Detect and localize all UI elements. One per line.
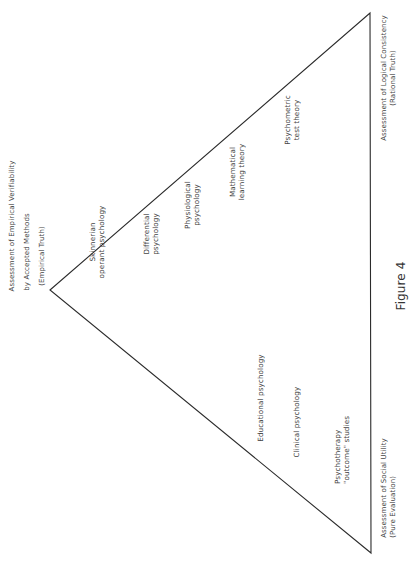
field-label-physiological: Physiological psychology: [184, 181, 201, 229]
vertex-evaluation-line2: (Pure Evaluation): [388, 438, 397, 538]
figure-diagram: Assessment of Empirical Verifiability by…: [0, 0, 418, 561]
field-label-skinnerian: Skinnerian operant psychology: [89, 206, 106, 279]
field-label-educational: Educational psychology: [257, 354, 266, 441]
vertex-label-empirical-methods: by Accepted Methods: [23, 213, 32, 290]
triangle-outline: [50, 13, 371, 553]
field-label-differential: Differential psychology: [143, 213, 160, 255]
field-line2: test theory: [292, 95, 301, 144]
vertex-rational-line1: Assessment of Logical Consistency: [380, 15, 389, 141]
field-line1: Clinical psychology: [293, 387, 302, 458]
field-line2: "outcome" studies: [342, 416, 351, 484]
vertex-label-evaluation: Assessment of Social Utility (Pure Evalu…: [380, 438, 397, 538]
field-label-mathematical: Mathematical learning theory: [229, 144, 246, 201]
vertex-label-rational: Assessment of Logical Consistency (Ratio…: [380, 15, 397, 141]
field-label-psychometric: Psychometric test theory: [284, 95, 301, 144]
field-line2: operant psychology: [97, 206, 106, 279]
field-label-clinical: Clinical psychology: [293, 387, 302, 458]
triangle-shape: [0, 0, 418, 561]
field-label-psychotherapy: Psychotherapy "outcome" studies: [334, 416, 351, 484]
vertex-label-empirical: Assessment of Empirical Verifiability: [8, 161, 17, 292]
vertex-label-empirical-truth: (Empirical Truth): [38, 226, 47, 286]
vertex-empirical-line3: (Empirical Truth): [38, 226, 47, 286]
field-line2: psychology: [151, 213, 160, 255]
field-line2: psychology: [192, 181, 201, 229]
vertex-rational-line2: (Rational Truth): [388, 15, 397, 141]
vertex-empirical-line1: Assessment of Empirical Verifiability: [8, 161, 17, 292]
vertex-evaluation-line1: Assessment of Social Utility: [380, 438, 389, 538]
field-line2: learning theory: [237, 144, 246, 201]
figure-caption-text: Figure 4: [397, 262, 406, 311]
figure-caption: Figure 4: [397, 262, 406, 311]
field-line1: Educational psychology: [257, 354, 266, 441]
vertex-empirical-line2: by Accepted Methods: [23, 213, 32, 290]
